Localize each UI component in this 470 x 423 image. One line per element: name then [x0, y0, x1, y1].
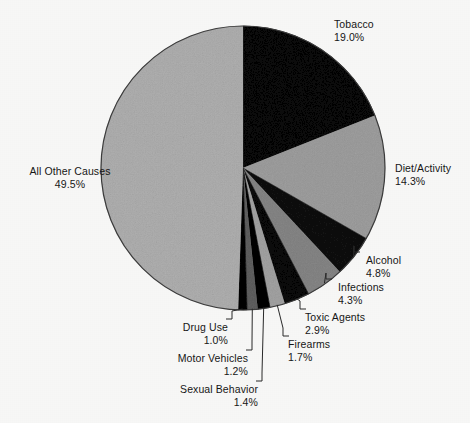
- slice-label-name: All Other Causes: [10, 165, 130, 178]
- leader-line: [297, 299, 307, 310]
- slice-label: Drug Use1.0%: [0, 321, 228, 346]
- slice-label-name: Firearms: [288, 338, 330, 351]
- slice-label-name: Motor Vehicles: [0, 352, 248, 365]
- slice-label-name: Infections: [338, 281, 384, 294]
- slice-label: Tobacco19.0%: [334, 18, 374, 43]
- slice-label-percent: 1.7%: [288, 351, 330, 364]
- slice-label-name: Sexual Behavior: [0, 383, 258, 396]
- slice-label-name: Diet/Activity: [395, 162, 451, 175]
- slice-label: Motor Vehicles1.2%: [0, 352, 248, 377]
- leader-line: [256, 308, 264, 382]
- slice-label-name: Toxic Agents: [305, 311, 365, 324]
- slice-label-percent: 1.4%: [0, 396, 258, 409]
- slice-label-percent: 49.5%: [10, 178, 130, 191]
- slice-label-name: Tobacco: [334, 18, 374, 31]
- slice-label-percent: 1.2%: [0, 365, 248, 378]
- slice-label: Sexual Behavior1.4%: [0, 383, 258, 408]
- slice-label: Toxic Agents2.9%: [305, 311, 365, 336]
- slice-label-percent: 4.3%: [338, 294, 384, 307]
- slice-label-percent: 2.9%: [305, 324, 365, 337]
- leader-line: [277, 305, 289, 336]
- slice-label-percent: 1.0%: [0, 334, 228, 347]
- slice-label: Diet/Activity14.3%: [395, 162, 451, 187]
- pie-slices: [101, 26, 385, 310]
- slice-label: Firearms1.7%: [288, 338, 330, 363]
- slice-label: Infections4.3%: [338, 281, 384, 306]
- slice-label-percent: 19.0%: [334, 31, 374, 44]
- slice-label-name: Drug Use: [0, 321, 228, 334]
- pie-chart-figure: Tobacco19.0%Diet/Activity14.3%Alcohol4.8…: [0, 0, 470, 423]
- slice-label: Alcohol4.8%: [366, 254, 401, 279]
- slice-label-name: Alcohol: [366, 254, 401, 267]
- slice-label: All Other Causes49.5%: [10, 165, 130, 190]
- leader-line: [246, 309, 252, 350]
- slice-label-percent: 14.3%: [395, 175, 451, 188]
- slice-label-percent: 4.8%: [366, 267, 401, 280]
